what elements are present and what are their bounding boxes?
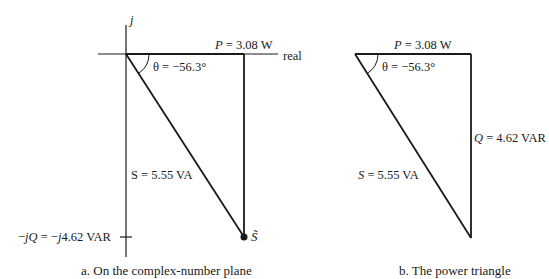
q-value: = 4.62 VAR [483, 131, 546, 145]
theta-label-b: θ = −56.3° [382, 61, 435, 74]
s-label-a: S = 5.55 VA [131, 169, 192, 182]
figure-b-geometry [355, 54, 471, 238]
caption-a: a. On the complex-number plane [81, 264, 252, 277]
theta-label-a: θ = −56.3° [153, 61, 206, 74]
p-value: = 3.08 W [223, 38, 273, 52]
s-label-b: S = 5.55 VA [358, 169, 419, 182]
theta-arc [139, 54, 150, 73]
p-label-b: P = 3.08 W [394, 39, 452, 52]
q-label-a: −jQ = −j4.62 VAR [18, 231, 111, 244]
equals: = − [38, 230, 58, 244]
minus: − [18, 230, 25, 244]
real-axis-label: real [283, 50, 302, 63]
q-value: 4.62 VAR [61, 230, 111, 244]
p-symbol: P [215, 38, 223, 52]
s-hypotenuse [126, 54, 244, 237]
q-symbol: Q [474, 131, 483, 145]
jq-symbol: jQ [25, 230, 38, 244]
s-point-dot [241, 234, 248, 241]
p-label-a: P = 3.08 W [215, 39, 273, 52]
p-symbol: P [394, 38, 402, 52]
imaginary-axis-label: j [130, 14, 133, 27]
q-label-b: Q = 4.62 VAR [474, 132, 546, 145]
s-point-label: S̃ [251, 230, 258, 243]
theta-arc [367, 54, 378, 73]
caption-b: b. The power triangle [399, 264, 511, 277]
s-edge [355, 54, 471, 238]
p-value: = 3.08 W [402, 38, 452, 52]
s-value: = 5.55 VA [364, 168, 419, 182]
